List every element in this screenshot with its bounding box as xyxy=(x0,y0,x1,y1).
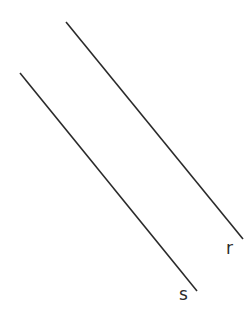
line-s xyxy=(20,73,197,291)
diagram-canvas: r s xyxy=(0,0,252,321)
label-r: r xyxy=(226,238,233,258)
line-r xyxy=(66,22,243,239)
label-s: s xyxy=(179,284,188,304)
